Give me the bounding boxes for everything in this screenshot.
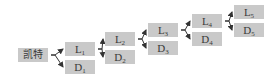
node-L3: L3 bbox=[148, 23, 178, 37]
node-label: L bbox=[202, 15, 209, 27]
arrow-edge bbox=[225, 12, 232, 21]
node-subscript: 5 bbox=[251, 12, 255, 20]
arrow-edge bbox=[138, 39, 146, 48]
arrow-edge bbox=[181, 30, 190, 39]
node-subscript: 1 bbox=[82, 49, 86, 57]
node-subscript: 3 bbox=[165, 48, 169, 56]
node-subscript: 4 bbox=[209, 39, 213, 47]
arrow-edge bbox=[51, 55, 63, 67]
node-D3: D3 bbox=[148, 41, 178, 55]
node-L1: L1 bbox=[65, 42, 95, 56]
node-label: L bbox=[244, 6, 251, 18]
arrow-edge bbox=[225, 21, 232, 30]
node-L2: L2 bbox=[105, 32, 135, 46]
node-D1: D1 bbox=[65, 60, 95, 74]
node-subscript: 4 bbox=[209, 21, 213, 29]
node-D4: D4 bbox=[192, 32, 222, 46]
arrow-edge bbox=[51, 49, 63, 55]
node-subscript: 1 bbox=[82, 67, 86, 75]
node-subscript: 3 bbox=[165, 30, 169, 38]
arrow-edge bbox=[138, 30, 146, 39]
node-subscript: 5 bbox=[251, 30, 255, 38]
node-label: L bbox=[158, 24, 165, 36]
arrow-edge bbox=[181, 21, 190, 30]
arrow-edge bbox=[98, 49, 103, 57]
node-L4: L4 bbox=[192, 14, 222, 28]
root-label: 凯特 bbox=[23, 49, 43, 60]
node-subscript: 2 bbox=[122, 39, 126, 47]
node-D5: D5 bbox=[234, 23, 264, 37]
node-subscript: 2 bbox=[122, 57, 126, 65]
root-node-kate: 凯特 bbox=[18, 48, 48, 62]
node-L5: L5 bbox=[234, 5, 264, 19]
node-label: L bbox=[75, 43, 82, 55]
node-D2: D2 bbox=[105, 50, 135, 64]
arrow-edge bbox=[98, 39, 103, 49]
node-label: L bbox=[115, 33, 122, 45]
